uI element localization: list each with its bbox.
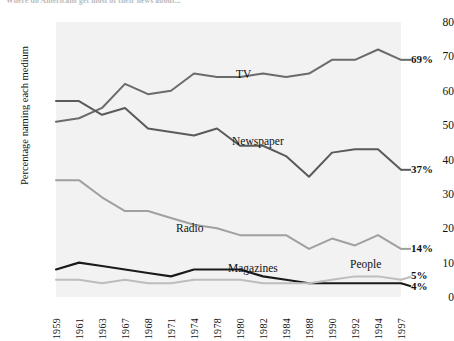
y-tick-20: 20 xyxy=(410,222,454,234)
x-tick-1984: 1984 xyxy=(281,318,292,339)
x-tick-1992: 1992 xyxy=(350,318,361,339)
y-tick-30: 30 xyxy=(410,188,454,200)
series-label-newspaper: Newspaper xyxy=(232,135,284,147)
plot-area xyxy=(56,22,401,297)
chart-container: Where do Americans get most of their new… xyxy=(0,0,454,341)
series-label-tv: TV xyxy=(236,68,251,80)
end-label-radio: 14% xyxy=(411,242,433,254)
series-lines xyxy=(56,22,401,297)
x-tick-1997: 1997 xyxy=(396,318,407,339)
y-tick-10: 10 xyxy=(410,257,454,269)
line-series-tv xyxy=(56,50,401,122)
leader-magazines-icon xyxy=(401,283,411,286)
end-label-people: 5% xyxy=(411,269,428,281)
line-series-radio xyxy=(56,180,401,249)
line-series-newspaper xyxy=(56,101,401,177)
x-tick-1994: 1994 xyxy=(373,318,384,339)
x-tick-1990: 1990 xyxy=(327,318,338,339)
x-tick-1974: 1974 xyxy=(189,318,200,339)
y-axis-title: Percentage naming each medium xyxy=(19,6,30,226)
x-tick-1963: 1963 xyxy=(97,318,108,339)
series-label-people: People xyxy=(350,258,381,270)
y-tick-50: 50 xyxy=(410,119,454,131)
end-label-magazines: 4% xyxy=(411,280,428,292)
series-label-radio: Radio xyxy=(176,222,203,234)
end-label-tv: 69% xyxy=(411,53,433,65)
x-tick-1959: 1959 xyxy=(51,318,62,339)
x-tick-1980: 1980 xyxy=(235,318,246,339)
leader-people-icon xyxy=(401,277,411,280)
series-label-magazines: Magazines xyxy=(228,262,278,274)
x-tick-1961: 1961 xyxy=(74,318,85,339)
x-axis-tick-labels: 1959196119631967196819711974197819801982… xyxy=(0,299,454,341)
x-tick-1968: 1968 xyxy=(143,318,154,339)
y-axis: Percentage naming each medium xyxy=(0,0,50,341)
x-tick-1971: 1971 xyxy=(166,318,177,339)
y-tick-60: 60 xyxy=(410,85,454,97)
x-tick-1982: 1982 xyxy=(258,318,269,339)
x-tick-1988: 1988 xyxy=(304,318,315,339)
end-label-newspaper: 37% xyxy=(411,163,433,175)
x-tick-1978: 1978 xyxy=(212,318,223,339)
x-tick-1967: 1967 xyxy=(120,318,131,339)
y-tick-80: 80 xyxy=(410,16,454,28)
